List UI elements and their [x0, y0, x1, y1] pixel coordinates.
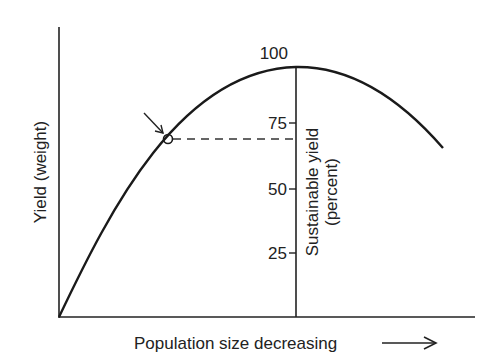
tick-label-25: 25 — [268, 244, 287, 263]
tick-label-50: 50 — [268, 180, 287, 199]
x-axis-label: Population size decreasing — [134, 334, 337, 353]
yield-diagram: 100 75 50 25 Yield (weight) Sustainable … — [0, 0, 499, 363]
tick-label-100: 100 — [260, 44, 288, 63]
y-axis-label: Yield (weight) — [31, 121, 50, 223]
tick-label-75: 75 — [268, 114, 287, 133]
sustainable-yield-unit-label: (percent) — [322, 158, 341, 226]
yield-curve — [59, 67, 443, 317]
direction-arrow-icon — [382, 337, 436, 349]
sustainable-yield-label: Sustainable yield — [303, 128, 322, 257]
arrow-icon — [144, 113, 163, 133]
